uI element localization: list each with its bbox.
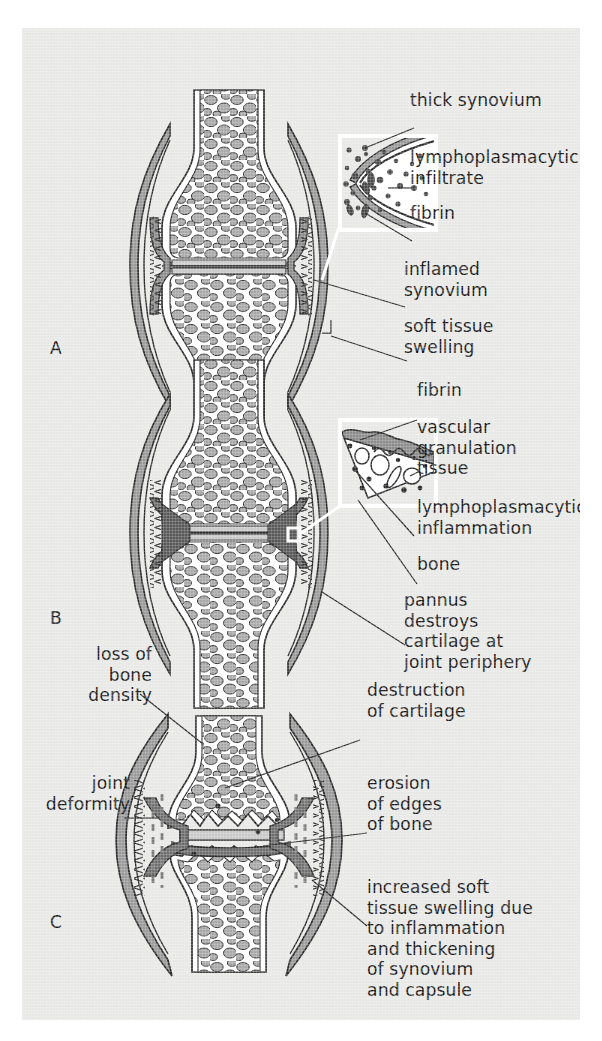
panel-letter-b: B	[50, 608, 62, 628]
label-lymphoplasmacytic-infiltrate: lymphoplasmacytic infiltrate	[410, 147, 579, 188]
label-loss-of-bone-density: loss of bone density	[22, 644, 152, 706]
label-fibrin-a: fibrin	[410, 203, 455, 224]
label-bone: bone	[417, 554, 460, 575]
panel-c-joint	[116, 694, 367, 976]
label-joint-deformity: joint deformity	[22, 773, 130, 814]
label-thick-synovium: thick synovium	[410, 90, 542, 111]
label-destruction-of-cartilage: destruction of cartilage	[367, 680, 466, 721]
label-lymphoplasmacytic-inflammation: lymphoplasmacytic inflammation	[417, 497, 580, 538]
figure-panel-container: A B C thick synovium lymphoplasmacytic i…	[22, 28, 580, 1020]
label-vascular-granulation-tissue: vascular granulation tissue	[417, 417, 517, 479]
label-fibrin-b: fibrin	[417, 380, 462, 401]
label-inflamed-synovium: inflamed synovium	[404, 259, 488, 300]
label-increased-soft-tissue-swelling: increased soft tissue swelling due to in…	[367, 877, 533, 1000]
panel-letter-c: C	[50, 912, 62, 932]
panel-b-joint	[130, 360, 328, 708]
label-pannus-destroys-cartilage: pannus destroys cartilage at joint perip…	[404, 590, 532, 672]
label-soft-tissue-swelling: soft tissue swelling	[404, 316, 493, 357]
label-erosion-of-edges-of-bone: erosion of edges of bone	[367, 773, 442, 835]
panel-letter-a: A	[50, 338, 62, 358]
